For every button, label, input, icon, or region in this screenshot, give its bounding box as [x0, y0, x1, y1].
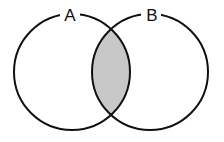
set-b-label: B	[146, 6, 157, 25]
set-a-label: A	[64, 6, 76, 25]
venn-diagram: A B	[0, 0, 224, 142]
